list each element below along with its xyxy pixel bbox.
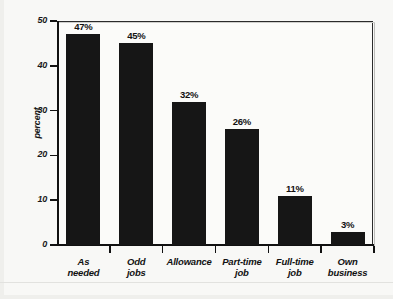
bar-value-label: 32% [164,89,214,100]
scan-edge-left [0,0,4,299]
bar [331,232,365,245]
y-tick-mark [50,199,57,201]
bar-value-label: 45% [111,30,161,41]
bar-value-label: 3% [323,219,373,230]
x-tick-mark [215,246,217,253]
page-rule-line [0,282,393,283]
y-tick-label: 50 [21,15,47,25]
plot-frame [57,21,373,245]
y-tick-mark [50,20,57,22]
bar [66,34,100,245]
y-tick-mark [50,65,57,67]
scan-edge-bottom [0,295,393,299]
y-tick-label: 20 [21,149,47,159]
bar [278,196,312,245]
y-axis-line [57,21,59,246]
x-tick-mark [109,246,111,253]
x-tick-mark [268,246,270,253]
bar-value-label: 47% [58,21,108,32]
bar-value-label: 26% [217,116,267,127]
bar [119,43,153,245]
x-tick-mark [320,246,322,253]
bar-value-label: 11% [270,183,320,194]
y-tick-label: 10 [21,194,47,204]
y-tick-mark [50,244,57,246]
x-tick-mark [373,246,375,253]
bar-chart-figure: percent 01020304050 47%45%32%26%11%3% As… [0,0,393,299]
y-tick-label: 0 [21,239,47,249]
y-tick-label: 40 [21,60,47,70]
x-tick-mark [162,246,164,253]
plot-frame-right-shadow [374,23,375,247]
y-tick-mark [50,155,57,157]
bar [225,129,259,245]
y-tick-label: 30 [21,105,47,115]
y-tick-mark [50,110,57,112]
bar [172,102,206,245]
category-label: Own business [316,256,380,278]
